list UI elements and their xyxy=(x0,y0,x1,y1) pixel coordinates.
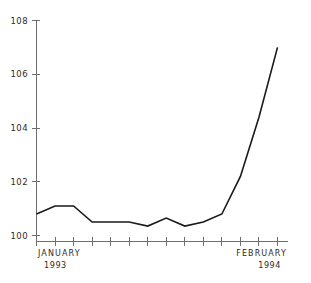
y-tick-label-108: 108 xyxy=(11,16,28,26)
y-tick-label-102: 102 xyxy=(11,177,28,187)
y-tick-label-104: 104 xyxy=(11,123,28,133)
line-chart: 108 106 104 102 100 JANUARY 1993 FEBRUAR… xyxy=(0,0,311,283)
x-axis-label-start: JANUARY xyxy=(37,249,81,258)
x-axis-year-end: 1994 xyxy=(258,261,281,270)
data-series-line xyxy=(37,47,278,226)
y-tick-label-106: 106 xyxy=(11,69,28,79)
x-axis-label-end: FEBRUARY xyxy=(236,249,287,258)
y-tick-label-100: 100 xyxy=(11,231,28,241)
chart-canvas: 108 106 104 102 100 JANUARY 1993 FEBRUAR… xyxy=(0,0,311,283)
x-axis-year-start: 1993 xyxy=(44,261,67,270)
